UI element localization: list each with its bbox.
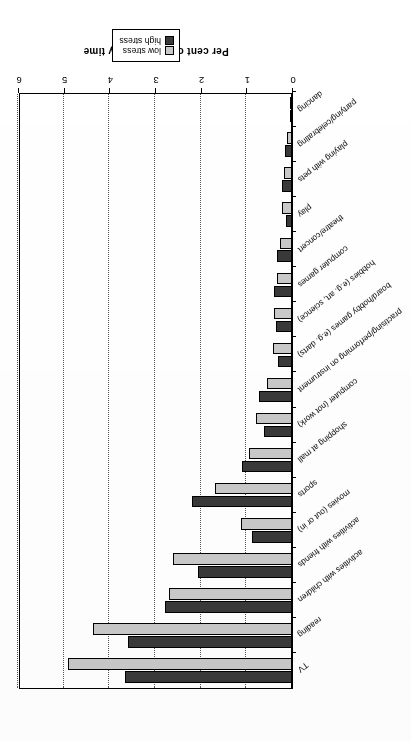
bar-low-stress (290, 97, 292, 109)
category-tick (292, 301, 296, 302)
bar-high-stress (282, 180, 292, 192)
value-tick-label-1: 1 (237, 75, 257, 86)
category-tick (292, 371, 296, 372)
plot-area (19, 93, 293, 689)
bar-low-stress (215, 483, 292, 495)
bar-low-stress (249, 448, 292, 460)
legend-item-low-stress: low stress (119, 47, 174, 56)
category-tick (292, 442, 296, 443)
legend-swatch-high-stress (165, 36, 174, 45)
bar-high-stress (259, 391, 292, 403)
category-tick (292, 266, 296, 267)
bar-low-stress (173, 553, 292, 565)
bar-high-stress (165, 601, 292, 613)
legend-item-high-stress: high stress (119, 36, 174, 45)
category-tick (292, 196, 296, 197)
bar-low-stress (93, 623, 292, 635)
bar-low-stress (68, 658, 292, 670)
bar-low-stress (287, 132, 292, 144)
bar-high-stress (277, 250, 292, 262)
value-tick-label-4: 4 (100, 75, 120, 86)
bar-high-stress (286, 215, 292, 227)
bar-low-stress (241, 518, 292, 530)
bar-low-stress (284, 167, 292, 179)
chart-legend: low stress high stress (112, 30, 180, 63)
gridline-3 (154, 94, 155, 688)
bar-high-stress (192, 496, 292, 508)
category-tick (292, 582, 296, 583)
rotated-figure-wrapper: 0123456 Per cent of total activity time … (0, 0, 411, 741)
value-tick-3 (155, 88, 156, 93)
value-tick-label-3: 3 (146, 75, 166, 86)
gridline-5 (63, 94, 64, 688)
value-tick-label-0: 0 (283, 75, 303, 86)
value-tick-2 (201, 88, 202, 93)
value-tick-0 (292, 88, 293, 93)
category-tick (292, 407, 296, 408)
bar-high-stress (125, 671, 292, 683)
category-tick (292, 652, 296, 653)
category-tick (292, 231, 296, 232)
legend-label-high-stress: high stress (119, 36, 161, 45)
legend-label-low-stress: low stress (123, 47, 161, 56)
bar-low-stress (277, 273, 292, 285)
category-tick (292, 336, 296, 337)
category-tick (292, 477, 296, 478)
category-tick (292, 617, 296, 618)
bar-chart-figure: 0123456 Per cent of total activity time … (0, 0, 411, 741)
value-tick-label-6: 6 (9, 75, 29, 86)
bar-high-stress (278, 356, 292, 368)
bar-low-stress (282, 202, 292, 214)
bar-high-stress (264, 426, 292, 438)
category-tick (292, 161, 296, 162)
bar-high-stress (128, 636, 292, 648)
category-tick (292, 512, 296, 513)
bar-high-stress (276, 321, 292, 333)
value-tick-6 (18, 88, 19, 93)
legend-swatch-low-stress (165, 47, 174, 56)
bar-high-stress (252, 531, 292, 543)
bar-low-stress (256, 413, 292, 425)
bar-high-stress (290, 110, 292, 122)
gridline-6 (17, 94, 18, 688)
value-tick-label-2: 2 (192, 75, 212, 86)
bar-high-stress (242, 461, 292, 473)
value-tick-1 (246, 88, 247, 93)
category-tick (292, 126, 296, 127)
value-tick-5 (64, 88, 65, 93)
bar-low-stress (280, 238, 292, 250)
bar-high-stress (274, 286, 292, 298)
bar-low-stress (169, 588, 292, 600)
bar-low-stress (267, 378, 292, 390)
gridline-4 (108, 94, 109, 688)
value-tick-4 (109, 88, 110, 93)
value-tick-label-5: 5 (55, 75, 75, 86)
category-tick (292, 547, 296, 548)
bar-high-stress (285, 145, 292, 157)
bar-low-stress (273, 343, 292, 355)
bar-low-stress (274, 308, 292, 320)
bar-high-stress (198, 566, 292, 578)
